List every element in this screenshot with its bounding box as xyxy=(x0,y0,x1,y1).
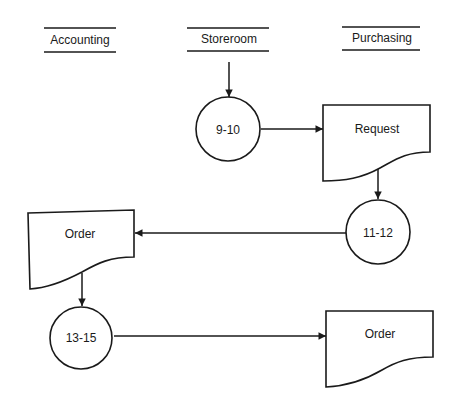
column-label-accounting: Accounting xyxy=(50,33,109,47)
document-label: Order xyxy=(65,227,96,241)
process-label: 11-12 xyxy=(363,226,393,240)
process-label: 9-10 xyxy=(216,123,240,137)
flowchart-canvas: Accounting Storeroom Purchasing 9-10 Req… xyxy=(0,0,460,413)
process-node-9-10: 9-10 xyxy=(196,97,260,161)
document-node-request: Request xyxy=(323,105,430,181)
document-label: Order xyxy=(365,327,396,341)
document-node-order-purchasing: Order xyxy=(326,311,433,387)
process-label: 13-15 xyxy=(66,331,97,345)
process-node-13-15: 13-15 xyxy=(50,307,112,369)
column-header-purchasing: Purchasing xyxy=(342,27,420,50)
document-node-order-accounting: Order xyxy=(28,210,134,289)
column-header-accounting: Accounting xyxy=(44,28,116,52)
column-label-purchasing: Purchasing xyxy=(352,31,412,45)
document-label: Request xyxy=(355,122,400,136)
column-header-storeroom: Storeroom xyxy=(187,28,269,51)
process-node-11-12: 11-12 xyxy=(346,200,410,264)
column-label-storeroom: Storeroom xyxy=(201,32,257,46)
